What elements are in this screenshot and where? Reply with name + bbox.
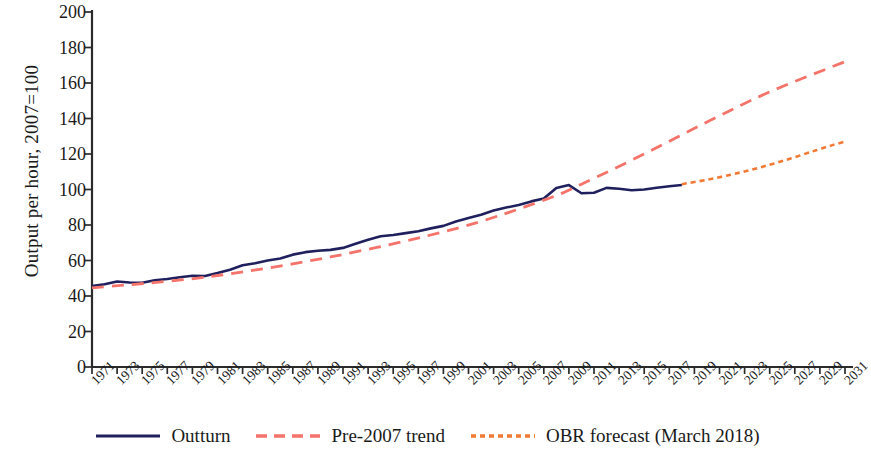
legend-swatch-dashed-line-icon — [256, 429, 320, 443]
legend-label: OBR forecast (March 2018) — [546, 425, 760, 447]
legend-item[interactable]: Outturn — [96, 425, 230, 447]
series-line-pre-2007-trend — [92, 62, 845, 288]
legend-label: Outturn — [171, 425, 230, 447]
y-tick-label: 0 — [40, 358, 86, 376]
y-tick-label: 100 — [40, 181, 86, 199]
y-tick-label: 180 — [40, 39, 86, 57]
legend-item[interactable]: OBR forecast (March 2018) — [471, 425, 760, 447]
y-axis-tick-labels: 200180160140120100806040200 — [36, 0, 86, 380]
y-tick-label: 80 — [40, 216, 86, 234]
data-series-group — [92, 62, 845, 288]
series-line-obr-forecast-march-2018 — [682, 142, 845, 185]
legend-item[interactable]: Pre-2007 trend — [256, 425, 444, 447]
y-tick-label: 40 — [40, 287, 86, 305]
y-tick-label: 20 — [40, 323, 86, 341]
chart-legend: OutturnPre-2007 trendOBR forecast (March… — [0, 420, 856, 451]
y-tick-label: 60 — [40, 252, 86, 270]
axis-lines — [85, 10, 853, 374]
legend-swatch-solid-line-icon — [96, 429, 160, 443]
y-tick-label: 140 — [40, 110, 86, 128]
y-tick-label: 120 — [40, 145, 86, 163]
legend-swatch-dotted-line-icon — [471, 429, 535, 443]
legend-label: Pre-2007 trend — [331, 425, 444, 447]
y-tick-label: 160 — [40, 74, 86, 92]
series-line-outturn — [92, 185, 682, 286]
y-tick-label: 200 — [40, 3, 86, 21]
